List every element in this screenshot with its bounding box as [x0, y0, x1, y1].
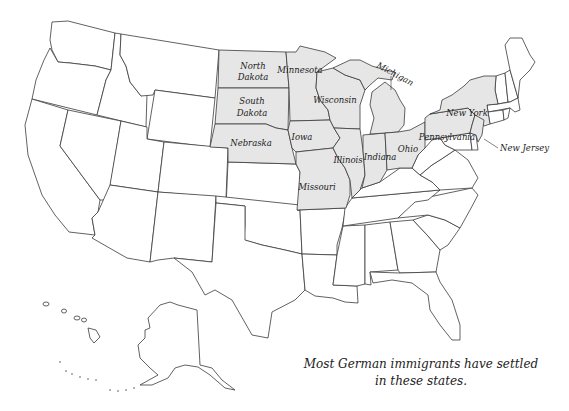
label-new-york: New York: [445, 108, 488, 118]
label-pennsylvania: Pennsylvania: [418, 132, 475, 142]
label-wisconsin: Wisconsin: [313, 95, 357, 105]
label-south-dakota-1: South: [239, 96, 264, 106]
label-indiana: Indiana: [363, 152, 397, 162]
state-connecticut: [488, 110, 504, 124]
state-alaska: [138, 302, 235, 390]
us-map: North Dakota South Dakota Nebraska Minne…: [0, 0, 569, 411]
label-ohio: Ohio: [398, 144, 418, 154]
label-minnesota: Minnesota: [276, 65, 322, 75]
state-colorado: [158, 142, 228, 198]
label-missouri: Missouri: [297, 182, 336, 192]
state-wyoming: [147, 90, 215, 147]
label-iowa: Iowa: [291, 132, 313, 142]
state-rhode-island: [503, 108, 510, 120]
map-caption: Most German immigrants have settled in t…: [296, 356, 546, 390]
state-hawaii: [43, 302, 100, 343]
label-north-dakota-1: North: [239, 61, 266, 71]
state-michigan-lower[interactable]: [370, 82, 405, 134]
label-new-jersey: New Jersey: [499, 143, 549, 153]
new-jersey-leader-line: [484, 139, 498, 148]
label-nebraska: Nebraska: [229, 138, 272, 148]
aleutian-islands: [59, 361, 135, 392]
state-montana: [120, 34, 219, 98]
state-florida: [370, 272, 460, 340]
state-new-mexico: [150, 192, 216, 262]
label-illinois: Illinois: [332, 155, 363, 165]
caption-line-1: Most German immigrants have settled: [296, 356, 546, 373]
label-south-dakota-2: Dakota: [236, 108, 268, 118]
label-north-dakota-2: Dakota: [237, 72, 269, 82]
caption-line-2: in these states.: [296, 373, 546, 390]
